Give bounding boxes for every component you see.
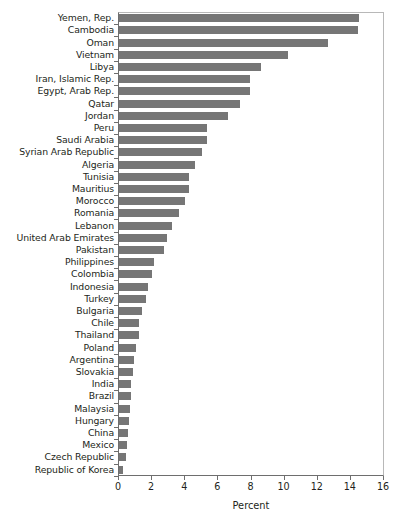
bar	[119, 453, 126, 461]
bar-row: Peru	[0, 122, 398, 134]
bar-category-label: Vietnam	[76, 50, 114, 59]
bar-track	[119, 158, 384, 170]
bar-track	[119, 427, 384, 439]
bar-track	[119, 110, 384, 122]
bar-category-label: Peru	[94, 123, 114, 132]
bar-category-label: Libya	[90, 62, 114, 71]
bar-row: Turkey	[0, 293, 398, 305]
bar	[119, 246, 164, 254]
bar-track	[119, 439, 384, 451]
bar-rows: Yemen, Rep.CambodiaOmanVietnamLibyaIran,…	[0, 12, 398, 476]
bar-track	[119, 36, 384, 48]
bar-track	[119, 341, 384, 353]
bar-row: Republic of Korea	[0, 464, 398, 476]
bar-track	[119, 195, 384, 207]
bar-category-label: Chile	[91, 319, 114, 328]
bar-row: Oman	[0, 36, 398, 48]
bar-category-label: Turkey	[84, 294, 114, 303]
bar-row: Philippines	[0, 256, 398, 268]
bar-category-label: Czech Republic	[45, 453, 114, 462]
bar-category-label: India	[92, 380, 114, 389]
bar-track	[119, 403, 384, 415]
bar-track	[119, 244, 384, 256]
bar-category-label: Romania	[74, 209, 114, 218]
bar	[119, 161, 195, 169]
bar-row: Romania	[0, 207, 398, 219]
bar-row: Egypt, Arab Rep.	[0, 85, 398, 97]
bar-category-label: Hungary	[75, 416, 114, 425]
bar-row: Chile	[0, 317, 398, 329]
bar-row: Bulgaria	[0, 305, 398, 317]
bar-row: Libya	[0, 61, 398, 73]
x-axis-tick	[184, 476, 185, 480]
bar	[119, 112, 228, 120]
bar-row: Mauritius	[0, 183, 398, 195]
bar-track	[119, 219, 384, 231]
bar-track	[119, 232, 384, 244]
bar	[119, 234, 167, 242]
x-axis-tick-label: 4	[181, 482, 187, 492]
bar-row: Thailand	[0, 329, 398, 341]
bar	[119, 185, 189, 193]
bar-category-label: Brazil	[89, 392, 114, 401]
bar	[119, 405, 130, 413]
bar-row: China	[0, 427, 398, 439]
bar-row: Yemen, Rep.	[0, 12, 398, 24]
bar-row: Czech Republic	[0, 451, 398, 463]
x-axis-tick-label: 8	[247, 482, 253, 492]
bar-row: Hungary	[0, 415, 398, 427]
bar-category-label: Tunisia	[83, 172, 114, 181]
bar-row: United Arab Emirates	[0, 232, 398, 244]
bar-track	[119, 207, 384, 219]
bar-row: Colombia	[0, 268, 398, 280]
bar-row: Lebanon	[0, 219, 398, 231]
bar-track	[119, 183, 384, 195]
bar-track	[119, 85, 384, 97]
bar-row: Algeria	[0, 158, 398, 170]
bar-track	[119, 464, 384, 476]
bar	[119, 344, 136, 352]
bar-category-label: Algeria	[82, 160, 114, 169]
x-axis-tick-label: 0	[115, 482, 121, 492]
bar-row: Poland	[0, 341, 398, 353]
bar	[119, 417, 129, 425]
bar	[119, 209, 179, 217]
bar-category-label: United Arab Emirates	[17, 233, 114, 242]
bar-category-label: Oman	[86, 38, 114, 47]
bar-category-label: Mauritius	[72, 184, 114, 193]
x-axis-tick	[284, 476, 285, 480]
bar	[119, 331, 139, 339]
bar-track	[119, 122, 384, 134]
bar-track	[119, 329, 384, 341]
bar-category-label: Saudi Arabia	[56, 135, 114, 144]
x-axis-tick-label: 12	[311, 482, 323, 492]
bar	[119, 258, 154, 266]
bar-category-label: Argentina	[70, 355, 114, 364]
bar-track	[119, 61, 384, 73]
bar-track	[119, 134, 384, 146]
bar	[119, 26, 358, 34]
x-axis-tick	[383, 476, 384, 480]
bar-category-label: Egypt, Arab Rep.	[38, 87, 115, 96]
bar-track	[119, 293, 384, 305]
bar-category-label: Republic of Korea	[35, 465, 114, 474]
bar-track	[119, 256, 384, 268]
bar-category-label: Lebanon	[75, 221, 114, 230]
bar	[119, 429, 128, 437]
bar-row: Tunisia	[0, 171, 398, 183]
bar	[119, 270, 152, 278]
bar-row: Mexico	[0, 439, 398, 451]
bar-chart: Yemen, Rep.CambodiaOmanVietnamLibyaIran,…	[0, 0, 398, 524]
bar	[119, 197, 185, 205]
bar-category-label: Thailand	[75, 331, 114, 340]
bar-category-label: Slovakia	[76, 367, 114, 376]
bar-track	[119, 280, 384, 292]
bar-category-label: Pakistan	[76, 245, 114, 254]
bar-track	[119, 171, 384, 183]
bar-category-label: Iran, Islamic Rep.	[36, 74, 114, 83]
x-axis-tick	[350, 476, 351, 480]
x-axis-title: Percent	[118, 500, 384, 511]
x-axis-tick	[151, 476, 152, 480]
bar-category-label: Syrian Arab Republic	[19, 148, 114, 157]
bar	[119, 100, 240, 108]
